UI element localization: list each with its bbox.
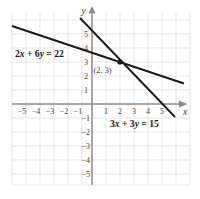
y-tick-label: 3 <box>84 58 88 67</box>
y-tick-label: 2 <box>84 72 88 81</box>
x-tick-label: −5 <box>18 107 27 116</box>
graph-svg: −5 −4 −3 −2 −1 1 2 3 4 5 5 4 3 2 1 −1 −2… <box>0 0 200 199</box>
intersection-point-label: (2, 3) <box>94 66 112 75</box>
x-tick-label: −2 <box>60 107 69 116</box>
x-tick-label: 5 <box>160 107 164 116</box>
x-tick-label: 2 <box>118 107 122 116</box>
y-tick-label: −1 <box>81 114 90 123</box>
y-tick-label: −2 <box>81 128 90 137</box>
y-axis-arrow-icon <box>88 6 95 14</box>
y-tick-label: 5 <box>84 30 88 39</box>
x-tick-label: −4 <box>32 107 41 116</box>
y-tick-label: 1 <box>84 86 88 95</box>
x-tick-label: −3 <box>46 107 55 116</box>
eq1-mid: + 6 <box>25 48 40 59</box>
y-tick-label: −3 <box>81 142 90 151</box>
eq2-tail: = 15 <box>139 118 159 129</box>
x-axis-name-label: x <box>182 107 188 117</box>
eq2-mid: + 3 <box>120 118 135 129</box>
intersection-point-marker <box>117 59 122 64</box>
x-tick-label: 3 <box>132 107 136 116</box>
x-axis-tick-labels: −5 −4 −3 −2 −1 1 2 3 4 5 <box>18 107 164 116</box>
x-tick-label: 1 <box>104 107 108 116</box>
equation-label-line1: 2x + 6y = 22 <box>15 48 64 59</box>
eq1-tail: = 22 <box>44 48 64 59</box>
y-axis-name-label: y <box>80 6 86 16</box>
y-tick-label: −4 <box>81 156 90 165</box>
y-tick-label: −5 <box>81 170 90 179</box>
x-tick-label: 4 <box>146 107 150 116</box>
coordinate-graph-figure: −5 −4 −3 −2 −1 1 2 3 4 5 5 4 3 2 1 −1 −2… <box>0 0 200 199</box>
equation-label-line2: 3x + 3y = 15 <box>110 118 159 129</box>
